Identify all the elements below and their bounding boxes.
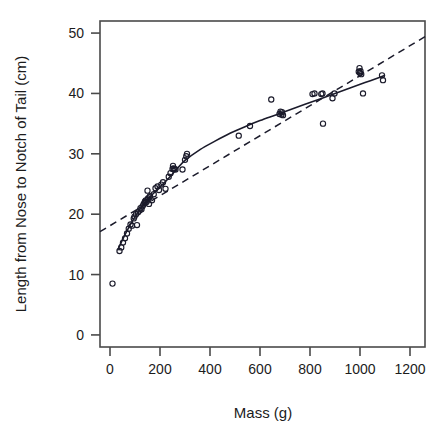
- data-point: [360, 91, 365, 96]
- data-point: [134, 222, 139, 227]
- data-point: [163, 186, 168, 191]
- fitted-curve: [118, 75, 386, 250]
- y-tick-label: 20: [68, 206, 84, 222]
- data-point: [145, 188, 150, 193]
- y-axis-title: Length from Nose to Notch of Tail (cm): [12, 56, 29, 313]
- scatter-plot-figure: 020040060080010001200 01020304050 Mass (…: [0, 0, 448, 445]
- y-tick-label: 30: [68, 146, 84, 162]
- y-tick-label: 50: [68, 25, 84, 41]
- data-point: [180, 167, 185, 172]
- x-axis-tick-labels: 020040060080010001200: [106, 361, 426, 377]
- x-tick-label: 800: [298, 361, 322, 377]
- y-axis-tick-labels: 01020304050: [68, 25, 84, 343]
- y-tick-label: 10: [68, 267, 84, 283]
- x-tick-label: 0: [106, 361, 114, 377]
- y-tick-label: 0: [76, 327, 84, 343]
- x-axis-title: Mass (g): [234, 404, 292, 421]
- data-point: [236, 133, 241, 138]
- x-tick-label: 600: [248, 361, 272, 377]
- x-tick-label: 400: [198, 361, 222, 377]
- data-points: [110, 65, 386, 286]
- y-tick-label: 40: [68, 85, 84, 101]
- x-axis-ticks: [110, 347, 410, 356]
- plot-canvas: 020040060080010001200 01020304050 Mass (…: [0, 0, 448, 445]
- y-axis-ticks: [91, 33, 100, 335]
- x-tick-label: 1200: [394, 361, 425, 377]
- plot-frame: [100, 21, 425, 347]
- x-tick-label: 200: [148, 361, 172, 377]
- data-point: [110, 281, 115, 286]
- x-tick-label: 1000: [344, 361, 375, 377]
- data-point: [269, 97, 274, 102]
- data-point: [320, 121, 325, 126]
